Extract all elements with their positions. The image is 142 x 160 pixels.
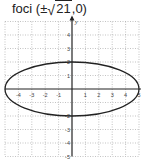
y-tick-label: -3 — [65, 127, 70, 133]
x-tick-label: -3 — [29, 92, 34, 98]
x-tick-label: -1 — [56, 92, 61, 98]
y-axis-arrow-icon — [70, 16, 75, 21]
y-tick-label: 1 — [67, 73, 70, 79]
x-tick-label: 4 — [124, 92, 127, 98]
y-tick-label: 3 — [67, 46, 70, 52]
y-axis-label: y — [74, 19, 78, 25]
x-tick-label: 3 — [111, 92, 114, 98]
x-tick-label: -4 — [16, 92, 21, 98]
y-tick-label: -4 — [65, 140, 70, 146]
y-tick-label: 4 — [67, 32, 70, 38]
x-tick-label: 1 — [84, 92, 87, 98]
ellipse-plot: y-4-3-2-1123454321-2-3-4-5 — [0, 0, 142, 159]
x-tick-label: 2 — [97, 92, 100, 98]
y-tick-label: -5 — [65, 154, 70, 160]
x-tick-label: -2 — [43, 92, 48, 98]
